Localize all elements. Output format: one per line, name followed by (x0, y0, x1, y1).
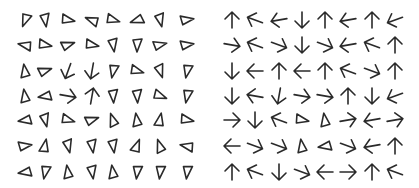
triangle-icon (182, 166, 192, 180)
arrow-icon (269, 137, 289, 156)
triangle-icon (61, 114, 76, 126)
triangle-icon (38, 39, 52, 50)
triangle-icon (84, 14, 99, 27)
triangle-icon (132, 90, 142, 104)
triangle-icon (87, 139, 98, 153)
arrow-icon (341, 88, 355, 104)
triangle-icon (39, 138, 50, 152)
arrow-icon (248, 112, 262, 128)
arrow-icon (225, 164, 239, 180)
arrow-icon (294, 64, 310, 78)
arrow-icon (365, 88, 379, 104)
arrow-icon (225, 88, 239, 104)
triangle-icon (19, 63, 30, 77)
triangle-icon (108, 90, 118, 104)
triangle-icon (180, 39, 194, 50)
triangle-icon (133, 39, 142, 52)
triangle-icon (319, 112, 330, 126)
triangle-icon (40, 165, 51, 179)
triangle-icon (63, 139, 75, 154)
arrow-icon (388, 37, 402, 53)
arrow-icon (318, 63, 332, 79)
triangle-icon (106, 112, 119, 127)
triangle-icon (130, 138, 143, 153)
arrow-icon (59, 61, 78, 81)
triangle-icon (85, 39, 99, 50)
arrow-icon (339, 12, 357, 29)
triangle-icon (108, 64, 119, 78)
arrow-icon (292, 163, 312, 182)
arrow-icon (363, 112, 381, 129)
triangle-icon (129, 14, 144, 27)
arrow-icon (270, 12, 288, 29)
triangle-icon (19, 88, 30, 102)
arrow-icon (225, 63, 239, 79)
arrow-icon (340, 165, 356, 179)
triangle-icon (17, 167, 31, 178)
triangle-icon (296, 138, 307, 152)
triangle-icon (317, 141, 331, 152)
triangle-icon (153, 38, 168, 50)
arrow-icon (317, 165, 333, 179)
arrow-icon (386, 112, 404, 129)
triangle-icon (17, 40, 31, 51)
arrow-icon (245, 163, 265, 182)
triangle-icon (108, 139, 119, 153)
arrow-icon (271, 87, 288, 105)
arrow-icon (295, 37, 309, 53)
triangle-icon (19, 13, 32, 28)
triangle-icon (40, 113, 52, 128)
triangle-icon (62, 164, 73, 178)
triangle-icon (61, 38, 76, 51)
arrow-icon (245, 137, 265, 156)
arrow-icon (339, 37, 357, 54)
arrow-icon (318, 12, 332, 28)
triangle-icon (18, 140, 32, 151)
arrow-icon (247, 64, 263, 78)
triangle-icon (155, 13, 167, 28)
triangle-icon (87, 165, 98, 179)
arrow-icon (245, 36, 265, 55)
arrow-icon (84, 87, 101, 105)
triangle-icon (61, 14, 75, 25)
triangle-icon (182, 89, 193, 103)
arrow-icon (338, 137, 358, 156)
arrow-icon (365, 164, 379, 180)
arrow-icon (388, 138, 402, 154)
triangle-icon (182, 64, 193, 78)
triangle-icon (38, 64, 53, 77)
triangle-icon (154, 64, 167, 79)
triangle-icon (108, 38, 119, 52)
triangle-icon (17, 115, 31, 126)
triangle-icon (153, 89, 168, 102)
arrow-icon (269, 36, 289, 55)
triangle-icon (154, 112, 165, 126)
triangle-icon (130, 65, 145, 77)
triangle-icon (132, 166, 142, 180)
arrow-icon (293, 88, 311, 105)
arrow-icon (385, 11, 405, 30)
arrow-icon (388, 63, 402, 79)
arrow-icon (338, 62, 358, 81)
arrow-icon (224, 113, 240, 127)
triangle-icon (180, 114, 194, 125)
triangle-icon (153, 138, 166, 153)
arrow-icon (224, 139, 240, 153)
left-search-panel (0, 0, 210, 188)
arrow-icon (363, 138, 381, 155)
arrow-icon (362, 62, 382, 81)
triangle-icon (106, 14, 121, 26)
arrow-icon (315, 36, 335, 55)
triangle-icon (107, 164, 118, 178)
triangle-icon (180, 14, 194, 25)
right-search-panel (210, 0, 419, 188)
triangle-icon (40, 13, 51, 27)
arrow-icon (269, 111, 289, 130)
arrow-icon (385, 87, 405, 106)
arrow-icon (245, 11, 265, 30)
triangle-grid (0, 0, 210, 188)
triangle-icon (85, 113, 100, 126)
arrow-icon (339, 112, 357, 129)
triangle-icon (179, 141, 193, 152)
arrow-icon (84, 62, 101, 80)
